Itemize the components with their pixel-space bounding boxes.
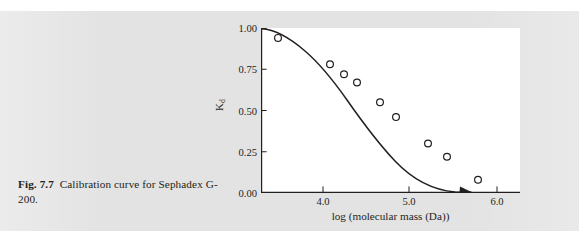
y-tick-label-0.75: 0.75 bbox=[221, 64, 257, 75]
figure-page: Fig. 7.7 Calibration curve for Sephadex … bbox=[0, 0, 579, 240]
data-point bbox=[475, 176, 482, 183]
data-point bbox=[354, 79, 361, 86]
y-tick-label-0.00: 0.00 bbox=[221, 188, 257, 199]
y-axis-title: Kd bbox=[213, 99, 225, 111]
data-point bbox=[327, 61, 334, 68]
plot-area bbox=[261, 28, 520, 193]
calibration-curve-plot bbox=[261, 28, 520, 193]
y-tick-label-1.00: 1.00 bbox=[221, 23, 257, 34]
y-axis-title-base: K bbox=[213, 103, 225, 111]
data-point bbox=[425, 140, 432, 147]
data-point-markers bbox=[275, 35, 482, 184]
x-axis-title: log (molecular mass (Da)) bbox=[261, 210, 520, 222]
data-point bbox=[341, 71, 348, 78]
data-point bbox=[275, 35, 282, 42]
y-axis-title-subscript: d bbox=[218, 99, 227, 103]
figure-caption: Fig. 7.7 Calibration curve for Sephadex … bbox=[18, 177, 218, 207]
figure-number: Fig. 7.7 bbox=[18, 178, 54, 190]
data-point bbox=[377, 99, 384, 106]
curve-end-arrowhead bbox=[460, 187, 473, 193]
data-point bbox=[393, 114, 400, 121]
y-tick-label-0.25: 0.25 bbox=[221, 146, 257, 157]
x-tick-label-5.0: 5.0 bbox=[402, 196, 415, 207]
calibration-curve-line bbox=[262, 29, 471, 192]
x-tick-label-6.0: 6.0 bbox=[490, 196, 503, 207]
data-point bbox=[444, 153, 451, 160]
x-tick-label-4.0: 4.0 bbox=[316, 196, 329, 207]
y-tick-label-0.50: 0.50 bbox=[221, 105, 257, 116]
